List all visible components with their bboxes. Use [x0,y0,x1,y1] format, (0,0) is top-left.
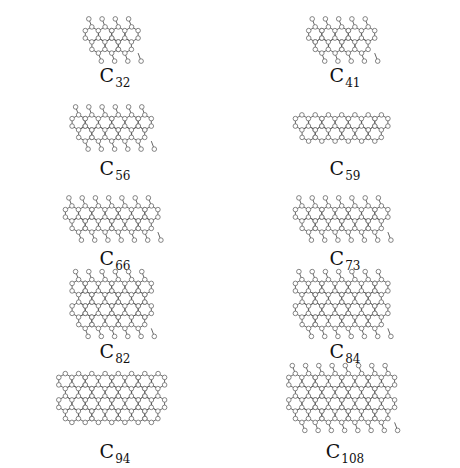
carbon-atom [353,219,358,224]
carbon-atom [346,139,351,144]
carbon-atom [320,371,325,376]
carbon-atom [293,281,298,286]
carbon-atom [136,226,141,231]
molecule-panel-c73: C73 [230,183,460,278]
carbon-atom [359,215,364,220]
carbon-atom [143,386,148,391]
carbon-atom [320,36,325,41]
carbon-atom [123,124,128,129]
carbon-atom [116,113,121,118]
carbon-atom [340,128,345,133]
carbon-atom [366,47,371,52]
carbon-atom [92,238,97,243]
carbon-atom [306,289,311,294]
carbon-atom [359,139,364,144]
carbon-atom [76,230,81,235]
carbon-atom [90,371,95,376]
carbon-atom [76,416,81,421]
carbon-atom [63,416,68,421]
carbon-atom [103,207,108,212]
carbon-atom [96,304,101,309]
carbon-atom [83,375,88,380]
carbon-atom [313,25,318,30]
carbon-atom [333,409,338,414]
carbon-atom [313,420,318,425]
carbon-atom [329,428,334,433]
carbon-atom [136,281,141,286]
carbon-atom [306,409,311,414]
carbon-atom [386,371,391,376]
carbon-atom [123,405,128,410]
carbon-atom [143,113,148,118]
carbon-atom [76,292,81,297]
carbon-atom [116,416,121,421]
carbon-atom [313,219,318,224]
carbon-atom [379,113,384,118]
carbon-atom [333,28,338,33]
carbon-atom [359,230,364,235]
carbon-atom [123,383,128,388]
carbon-atom [366,383,371,388]
carbon-atom [136,304,141,309]
carbon-atom [353,420,358,425]
carbon-atom [90,128,95,133]
carbon-atom [346,116,351,121]
carbon-atom [126,17,131,22]
carbon-atom [306,139,311,144]
carbon-atom [103,371,108,376]
carbon-atom [326,300,331,305]
atom-count-subscript: 108 [341,452,364,466]
carbon-atom [373,116,378,121]
carbon-atom [96,405,101,410]
carbon-atom [326,204,331,209]
carbon-atom [110,405,115,410]
carbon-atom [129,416,134,421]
carbon-atom [320,416,325,421]
carbon-atom [320,139,325,144]
carbon-atom [103,113,108,118]
carbon-atom [300,128,305,133]
carbon-atom [70,124,75,129]
carbon-atom [83,398,88,403]
carbon-atom [310,196,315,201]
carbon-atom [287,405,292,410]
carbon-atom [386,304,391,309]
carbon-atom [340,292,345,297]
carbon-atom [326,405,331,410]
carbon-atom [333,124,338,129]
carbon-atom [116,128,121,133]
carbon-atom [313,292,318,297]
carbon-atom [96,375,101,380]
carbon-atom [313,135,318,140]
carbon-atom [333,36,338,41]
carbon-atom [116,40,121,45]
carbon-atom [143,416,148,421]
carbon-atom [306,311,311,316]
carbon-atom [373,124,378,129]
carbon-atom [63,371,68,376]
carbon-atom [123,226,128,231]
carbon-atom [366,322,371,327]
carbon-atom [123,139,128,144]
carbon-atom [287,375,292,380]
carbon-atom [136,219,141,224]
carbon-atom [90,207,95,212]
carbon-atom [320,230,325,235]
carbon-atom [363,269,368,274]
carbon-atom [346,386,351,391]
carbon-atom [143,277,148,282]
carbon-atom [346,51,351,56]
carbon-atom [123,326,128,331]
carbon-atom [379,405,384,410]
carbon-atom [366,398,371,403]
carbon-atom [359,36,364,41]
carbon-atom [293,215,298,220]
carbon-atom [346,311,351,316]
carbon-atom [356,428,361,433]
carbon-atom [346,207,351,212]
carbon-atom [139,334,144,339]
carbon-atom [136,383,141,388]
carbon-atom [83,124,88,129]
carbon-atom [152,147,157,152]
carbon-atom [336,196,341,201]
